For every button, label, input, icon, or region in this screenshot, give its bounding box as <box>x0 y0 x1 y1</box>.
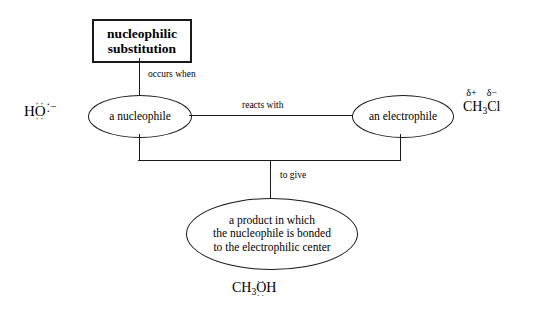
methanol-lone-pair-bottom-icon: ·· <box>257 291 266 300</box>
node-product-text: a product in which the nucleophile is bo… <box>213 214 331 254</box>
delta-positive-label: δ+ <box>466 87 476 98</box>
node-a-nucleophile-label: a nucleophile <box>109 110 171 123</box>
node-nucleophilic-substitution: nucleophilic substitution <box>92 19 192 63</box>
formula-hydroxide-ion: H ··O·· ··− <box>24 101 56 120</box>
hydroxide-lone-pair-top-icon: ·· <box>36 100 45 109</box>
chloromethane-chlorine: Cl <box>487 99 500 114</box>
edge-label-to-give: to give <box>278 171 308 181</box>
concept-map-canvas: nucleophilic substitution occurs when a … <box>0 0 537 326</box>
connector-title-to-nucleophile <box>139 58 140 96</box>
edge-label-occurs-when: occurs when <box>146 70 198 80</box>
formula-chloromethane: δ+ δ− CH3Cl <box>463 88 500 115</box>
hydroxide-lone-pair-bottom-icon: ·· <box>36 115 45 124</box>
methanol-methyl: CH <box>232 280 251 295</box>
methanol-oxygen-group: ··O·· <box>256 281 266 296</box>
product-line-1: a product in which <box>229 214 315 226</box>
chloromethane-partial-charges: δ+ δ− <box>463 88 500 99</box>
product-line-3: to the electrophilic center <box>213 241 330 253</box>
hydroxide-negative-charge: − <box>50 100 56 112</box>
chloromethane-formula-text: CH3Cl <box>463 99 500 114</box>
node-a-nucleophile: a nucleophile <box>88 95 192 138</box>
connector-electrophile-down <box>400 134 401 161</box>
product-line-2: the nucleophile is bonded <box>213 227 331 239</box>
title-line-1: nucleophilic <box>107 26 177 41</box>
connector-nucleophile-to-electrophile <box>189 115 353 116</box>
edge-label-reacts-with: reacts with <box>240 101 285 111</box>
connector-nucleophile-down <box>139 134 140 161</box>
methanol-hydrogen: H <box>266 280 276 295</box>
hydroxide-oxygen-group: ··O·· <box>35 104 46 120</box>
node-an-electrophile-label: an electrophile <box>369 110 437 123</box>
delta-negative-label: δ− <box>487 87 497 98</box>
node-product: a product in which the nucleophile is bo… <box>186 198 358 270</box>
connector-bracket-to-product <box>270 160 271 199</box>
formula-methanol: CH3 ··O·· H <box>232 281 276 297</box>
hydroxide-hydrogen: H <box>24 103 35 119</box>
chloromethane-carbon: CH <box>463 99 482 114</box>
title-line-2: substitution <box>108 41 176 56</box>
methanol-lone-pair-top-icon: ·· <box>257 277 266 286</box>
node-an-electrophile: an electrophile <box>352 95 454 138</box>
title-box-text: nucleophilic substitution <box>107 26 177 56</box>
